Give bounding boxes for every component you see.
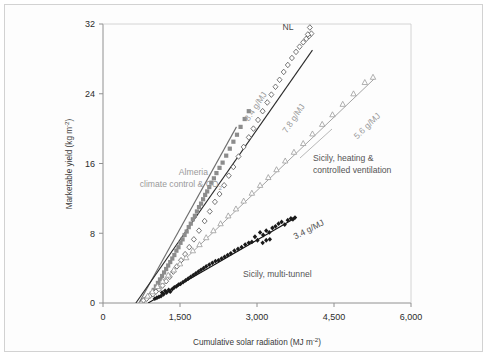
x-axis-title: Cumulative solar radiation (MJ m-2) — [193, 336, 321, 347]
data-point — [291, 149, 296, 154]
data-point — [196, 228, 201, 234]
data-point — [297, 44, 302, 50]
data-point — [193, 214, 197, 218]
data-point — [261, 233, 265, 238]
annotation-nl: NL — [283, 22, 294, 32]
data-point — [205, 189, 209, 193]
data-point — [235, 133, 239, 137]
data-point — [222, 182, 227, 188]
y-tick-group: 08162432 — [85, 19, 103, 308]
x-tick-label: 0 — [100, 312, 105, 322]
annotation-almeria-line1: Almeria — [179, 167, 208, 177]
annotation-almeria-line2: climate control & CO2 — [140, 179, 223, 191]
y-axis-title: Marketable yield (kg m-2) — [63, 118, 74, 209]
data-point — [307, 25, 312, 31]
data-point — [231, 140, 235, 144]
data-point — [256, 117, 261, 123]
data-point — [201, 197, 205, 201]
chart-canvas: 08162432 01,5003,0004,5006,000 Cumulativ… — [0, 0, 491, 362]
data-point — [212, 199, 217, 205]
data-point — [274, 167, 279, 172]
data-point — [241, 198, 246, 203]
data-point — [289, 55, 294, 61]
data-point — [330, 112, 335, 117]
data-point — [319, 121, 324, 126]
data-point — [273, 84, 278, 90]
data-point — [362, 80, 367, 85]
x-tick-label: 1,500 — [169, 312, 192, 322]
data-point — [277, 77, 282, 83]
annotation-sicily-heating-line1: Sicily, heating & — [313, 153, 374, 163]
data-point — [351, 91, 356, 96]
fit-lines-group — [136, 50, 375, 303]
data-point — [340, 101, 345, 106]
y-tick-label: 16 — [85, 159, 95, 169]
data-point — [249, 190, 254, 195]
data-point — [251, 126, 256, 132]
data-point — [226, 213, 231, 218]
data-point — [253, 234, 257, 239]
data-point — [187, 244, 192, 250]
x-tick-label: 3,000 — [246, 312, 269, 322]
data-point — [176, 245, 180, 249]
data-point — [189, 222, 193, 226]
data-point — [268, 237, 272, 242]
data-point — [238, 125, 242, 129]
data-point — [264, 238, 268, 243]
data-point — [266, 175, 271, 180]
data-point — [185, 229, 189, 233]
axes-group — [103, 24, 411, 303]
data-point — [180, 237, 184, 241]
data-point — [301, 141, 306, 146]
y-tick-label: 8 — [90, 229, 95, 239]
data-point — [269, 92, 274, 98]
series-layer — [136, 25, 376, 303]
annotation-slope-3-4: 3.4 g/MJ — [292, 217, 326, 241]
data-point — [241, 144, 246, 150]
data-point — [258, 230, 262, 235]
data-point — [257, 182, 262, 187]
y-tick-label: 0 — [90, 298, 95, 308]
x-tick-group: 01,5003,0004,5006,000 — [100, 303, 422, 322]
data-point — [172, 253, 176, 257]
x-tick-label: 6,000 — [400, 312, 423, 322]
data-point — [294, 49, 299, 55]
data-point — [197, 242, 202, 247]
data-point — [265, 100, 270, 106]
data-point — [226, 173, 231, 179]
data-point — [217, 166, 221, 170]
x-tick-label: 4,500 — [323, 312, 346, 322]
data-point — [224, 154, 228, 158]
y-tick-label: 24 — [85, 89, 95, 99]
y-tick-label: 32 — [85, 19, 95, 29]
data-point — [207, 209, 212, 215]
data-point — [281, 69, 286, 75]
data-point — [370, 74, 375, 79]
annotation-slope-5-6: 5.6 g/MJ — [352, 111, 383, 141]
data-point — [310, 131, 315, 136]
data-point — [217, 191, 222, 197]
data-point — [202, 218, 207, 224]
annotation-slope-7-8: 7.8 g/MJ — [280, 102, 307, 135]
series-open-diamond — [141, 25, 314, 303]
data-point — [260, 108, 265, 114]
data-point — [191, 237, 196, 243]
data-point — [195, 209, 199, 213]
data-point — [221, 161, 225, 165]
data-point — [214, 171, 218, 175]
data-point — [283, 158, 288, 163]
data-point — [285, 62, 290, 68]
data-point — [260, 240, 264, 245]
series-filled-square — [150, 109, 251, 295]
figure-root: 08162432 01,5003,0004,5006,000 Cumulativ… — [0, 0, 491, 362]
annotation-sicily-multitunnel: Sicily, multi-tunnel — [243, 269, 312, 279]
data-points-group — [141, 25, 376, 303]
fit-line — [139, 127, 237, 303]
data-point — [199, 202, 203, 206]
annotation-sicily-heating-line2: controlled ventilation — [313, 165, 392, 175]
fit-line — [136, 50, 313, 303]
data-point — [228, 147, 232, 151]
chart-svg: 08162432 01,5003,0004,5006,000 Cumulativ… — [0, 0, 491, 362]
